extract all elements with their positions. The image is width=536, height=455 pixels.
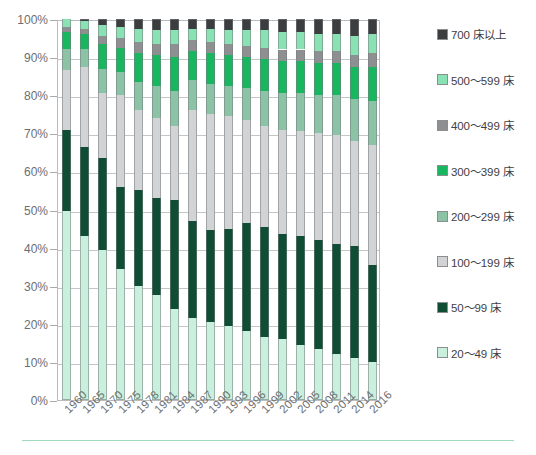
y-axis-tick-label: 50% bbox=[0, 204, 48, 218]
bar-segment bbox=[368, 265, 377, 362]
legend-item[interactable]: 200～299 床 bbox=[437, 208, 514, 224]
bar-segment bbox=[188, 19, 197, 29]
legend-item[interactable]: 400～499 床 bbox=[437, 117, 514, 133]
bar-segment bbox=[368, 145, 377, 265]
bar-segment bbox=[62, 27, 71, 33]
bar-segment bbox=[206, 19, 215, 29]
bar-segment bbox=[278, 93, 287, 129]
bar-2008[interactable] bbox=[314, 21, 323, 400]
bar-segment bbox=[152, 30, 161, 43]
bar-segment bbox=[116, 48, 125, 73]
bar-segment bbox=[350, 246, 359, 358]
bar-segment bbox=[224, 44, 233, 55]
bar-1993[interactable] bbox=[224, 21, 233, 400]
bar-1978[interactable] bbox=[134, 21, 143, 400]
legend-item[interactable]: 50～99 床 bbox=[437, 299, 501, 315]
y-axis-tick-label: 70% bbox=[0, 127, 48, 141]
y-axis-tick-mark bbox=[50, 287, 57, 288]
bar-segment bbox=[98, 25, 107, 36]
bar-segment bbox=[314, 63, 323, 95]
bar-2014[interactable] bbox=[350, 21, 359, 400]
bar-1960[interactable] bbox=[62, 21, 71, 400]
bar-segment bbox=[80, 67, 89, 147]
y-axis-tick-label: 80% bbox=[0, 89, 48, 103]
bar-segment bbox=[332, 244, 341, 354]
bar-1984[interactable] bbox=[170, 21, 179, 400]
bar-segment bbox=[116, 72, 125, 95]
bar-segment bbox=[278, 19, 287, 32]
bar-segment bbox=[152, 198, 161, 295]
bar-segment bbox=[278, 50, 287, 61]
bar-segment bbox=[350, 99, 359, 141]
bar-2016[interactable] bbox=[368, 21, 377, 400]
bar-segment bbox=[296, 50, 305, 61]
bar-segment bbox=[332, 135, 341, 244]
legend-label: 100～199 床 bbox=[451, 254, 514, 270]
bar-segment bbox=[170, 309, 179, 400]
bar-segment bbox=[332, 19, 341, 34]
bar-segment bbox=[278, 234, 287, 339]
bar-segment bbox=[260, 30, 269, 47]
bar-segment bbox=[224, 55, 233, 85]
bar-segment bbox=[260, 91, 269, 125]
y-axis-tick-mark bbox=[50, 134, 57, 135]
bar-1999[interactable] bbox=[260, 21, 269, 400]
bar-1975[interactable] bbox=[116, 21, 125, 400]
legend-item[interactable]: 300～399 床 bbox=[437, 163, 514, 179]
bar-segment bbox=[116, 269, 125, 400]
bar-segment bbox=[134, 29, 143, 42]
legend-item[interactable]: 700 床以上 bbox=[437, 26, 506, 42]
bar-segment bbox=[188, 318, 197, 400]
bar-segment bbox=[188, 110, 197, 220]
y-axis-tick-label: 100% bbox=[0, 13, 48, 27]
bar-segment bbox=[260, 59, 269, 91]
legend-swatch bbox=[437, 211, 448, 222]
bar-1996[interactable] bbox=[242, 21, 251, 400]
bar-segment bbox=[206, 42, 215, 53]
bar-segment bbox=[98, 36, 107, 44]
bar-segment bbox=[134, 190, 143, 285]
bar-segment bbox=[116, 19, 125, 27]
bar-segment bbox=[80, 34, 89, 49]
bar-segment bbox=[332, 34, 341, 51]
bar-segment bbox=[332, 63, 341, 95]
bar-2002[interactable] bbox=[278, 21, 287, 400]
legend-swatch bbox=[437, 74, 448, 85]
bar-segment bbox=[242, 19, 251, 30]
y-axis-tick-mark bbox=[50, 20, 57, 21]
bar-segment bbox=[350, 141, 359, 246]
bar-1970[interactable] bbox=[98, 21, 107, 400]
bar-segment bbox=[314, 51, 323, 62]
bar-segment bbox=[98, 69, 107, 94]
bar-segment bbox=[152, 55, 161, 85]
bar-segment bbox=[170, 19, 179, 30]
y-axis-tick-mark bbox=[50, 172, 57, 173]
bar-segment bbox=[98, 44, 107, 69]
legend-swatch bbox=[437, 120, 448, 131]
bar-segment bbox=[368, 19, 377, 34]
bar-segment bbox=[260, 227, 269, 337]
legend-item[interactable]: 100～199 床 bbox=[437, 254, 514, 270]
legend-label: 300～399 床 bbox=[451, 163, 514, 179]
legend-item[interactable]: 20～49 床 bbox=[437, 345, 501, 361]
bar-1990[interactable] bbox=[206, 21, 215, 400]
legend-swatch bbox=[437, 256, 448, 267]
bar-segment bbox=[188, 40, 197, 51]
bar-segment bbox=[80, 29, 89, 35]
y-axis-tick-mark bbox=[50, 325, 57, 326]
bar-1981[interactable] bbox=[152, 21, 161, 400]
bar-segment bbox=[152, 86, 161, 118]
legend-label: 500～599 床 bbox=[451, 72, 514, 88]
legend-label: 700 床以上 bbox=[451, 26, 506, 42]
plot-area bbox=[57, 20, 380, 401]
y-axis-tick-label: 40% bbox=[0, 242, 48, 256]
bar-segment bbox=[224, 86, 233, 116]
bar-1965[interactable] bbox=[80, 21, 89, 400]
bar-2005[interactable] bbox=[296, 21, 305, 400]
bar-1987[interactable] bbox=[188, 21, 197, 400]
bar-segment bbox=[134, 110, 143, 190]
legend-item[interactable]: 500～599 床 bbox=[437, 72, 514, 88]
bar-2011[interactable] bbox=[332, 21, 341, 400]
y-axis-tick-mark bbox=[50, 363, 57, 364]
bar-segment bbox=[206, 230, 215, 321]
